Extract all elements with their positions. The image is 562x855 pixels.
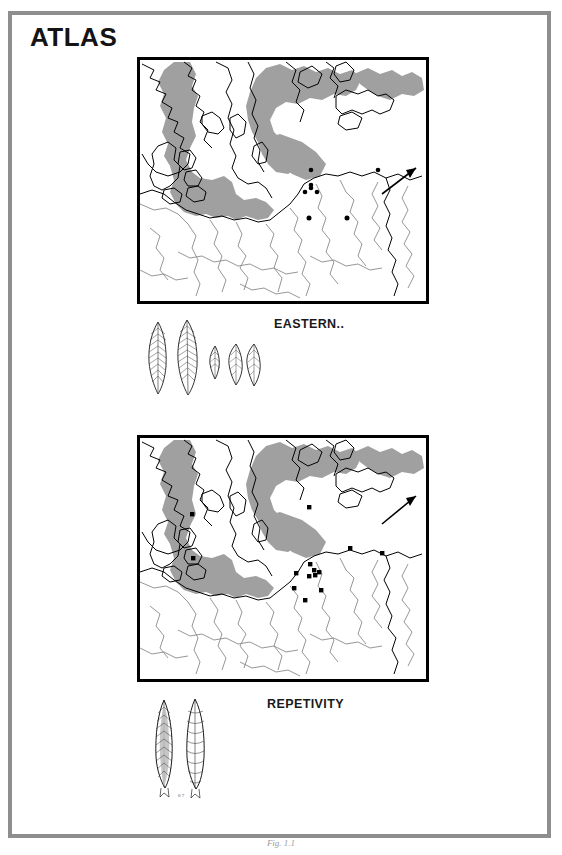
figure-label-upper: EASTERN.. [274,317,344,331]
figure-label-lower: REPETIVITY [267,697,344,711]
baltic-region-distribution-map-2[interactable] [137,435,429,682]
page-title: ATLAS [30,22,117,53]
figure-caption: Fig. 1.1 [0,838,562,848]
scale-label: 0 7 [178,793,185,798]
baltic-region-distribution-map-1[interactable] [137,57,429,304]
lithic-points-plate-upper [136,318,266,396]
lithic-points-plate-lower: 0 7 [138,697,224,803]
